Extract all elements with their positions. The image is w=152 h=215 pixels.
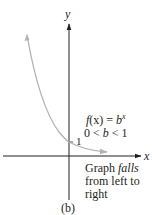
- curve-start-arrow-icon: [25, 34, 30, 41]
- function-equation: f(x) = bx 0 < b < 1: [84, 110, 128, 140]
- y-intercept-label: 1: [76, 136, 82, 147]
- note-emphasis: falls: [118, 161, 139, 175]
- figure-caption: (b): [61, 202, 75, 214]
- x-axis-label: x: [144, 150, 149, 162]
- note-text: Graph: [85, 161, 118, 175]
- note-line-3: right: [85, 188, 140, 201]
- equation-argument: (x) =: [89, 113, 116, 127]
- y-axis-label: y: [65, 8, 70, 20]
- exponential-decay-figure: y x 1 f(x) = bx 0 < b < 1 Graph falls fr…: [0, 0, 152, 215]
- lower-bound: 0 <: [84, 126, 103, 140]
- exponent: x: [122, 112, 126, 121]
- equation-line-2: 0 < b < 1: [84, 127, 128, 140]
- graph-description: Graph falls from left to right: [85, 162, 140, 201]
- upper-bound: < 1: [109, 126, 128, 140]
- equation-line-1: f(x) = bx: [84, 110, 128, 127]
